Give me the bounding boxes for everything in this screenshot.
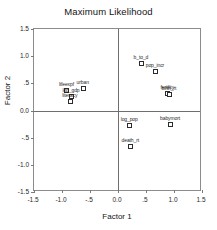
data-point-label: b_to_d <box>134 54 149 60</box>
x-tick-label: -.5 <box>85 196 93 203</box>
data-point-label: birth_rt <box>162 85 177 91</box>
y-tick-label: -.5 <box>9 133 29 140</box>
data-point-label: urban <box>77 79 89 85</box>
data-point-marker <box>153 69 158 74</box>
x-axis-label: Factor 1 <box>33 212 201 221</box>
x-tick-mark <box>118 190 119 193</box>
x-tick-label: 1.0 <box>168 196 177 203</box>
x-tick-mark <box>62 190 63 193</box>
y-tick-mark <box>31 83 34 84</box>
y-tick-mark <box>31 29 34 30</box>
x-tick-label: 0.0 <box>112 196 121 203</box>
y-tick-label: -1.0 <box>9 160 29 167</box>
x-tick-label: .5 <box>142 196 147 203</box>
data-point-label: log_pop <box>121 116 138 122</box>
y-tick-label: -1.5 <box>9 188 29 195</box>
data-point-marker <box>127 123 132 128</box>
y-tick-mark <box>31 56 34 57</box>
x-tick-mark <box>34 190 35 193</box>
y-tick-mark <box>31 111 34 112</box>
y-tick-label: 0.0 <box>9 106 29 113</box>
y-tick-label: 1.0 <box>9 52 29 59</box>
data-point-label: pop_incr <box>146 62 164 68</box>
data-point-label: literacy <box>62 92 77 98</box>
y-tick-mark <box>31 138 34 139</box>
data-point-marker <box>81 86 86 91</box>
data-point-marker <box>139 61 144 66</box>
x-tick-label: -1.0 <box>55 196 66 203</box>
y-tick-label: .5 <box>9 79 29 86</box>
chart-title: Maximum Likelihood <box>0 6 217 17</box>
x-tick-label: -1.5 <box>27 196 38 203</box>
x-tick-label: 1.5 <box>196 196 205 203</box>
y-tick-mark <box>31 192 34 193</box>
y-tick-mark <box>31 165 34 166</box>
x-tick-mark <box>202 190 203 193</box>
data-point-marker <box>128 144 133 149</box>
data-point-marker <box>68 99 73 104</box>
y-axis-label: Factor 2 <box>3 61 12 121</box>
factor-plot-figure: Maximum Likelihood b_to_dpop_incrfertili… <box>0 0 217 230</box>
y-tick-label: 1.5 <box>9 25 29 32</box>
data-point-label: death_rt <box>122 137 140 143</box>
x-tick-mark <box>174 190 175 193</box>
data-point-marker <box>168 122 173 127</box>
zero-line-horizontal <box>34 111 200 112</box>
data-point-marker <box>167 92 172 97</box>
x-tick-mark <box>90 190 91 193</box>
plot-area: b_to_dpop_incrfertilitybirth_rturbanlife… <box>33 28 201 191</box>
zero-line-vertical <box>118 29 119 190</box>
x-tick-mark <box>146 190 147 193</box>
data-point-label: babymort <box>160 115 180 121</box>
